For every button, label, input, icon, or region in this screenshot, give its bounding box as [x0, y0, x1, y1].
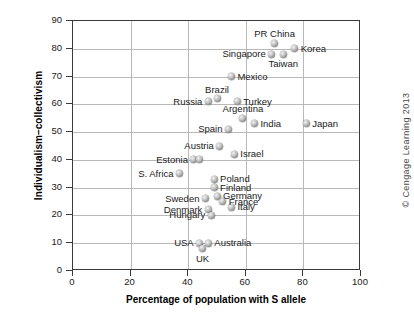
data-point — [202, 195, 209, 202]
data-point-label: PR China — [254, 29, 295, 39]
plot-area: PR ChinaSingaporeKoreaTaiwanMexicoBrazil… — [72, 20, 360, 270]
data-point — [303, 120, 310, 127]
data-point-label: Austria — [184, 141, 214, 151]
data-point-label: Taiwan — [268, 60, 298, 70]
gridline-horizontal — [73, 104, 359, 105]
gridline-vertical — [303, 21, 304, 269]
data-point-label: Russia — [173, 97, 202, 107]
data-point — [211, 184, 218, 191]
gridline-horizontal — [73, 160, 359, 161]
data-point-label: Mexico — [237, 72, 267, 82]
y-tick-label: 50 — [36, 126, 62, 136]
data-point — [205, 98, 212, 105]
data-point-label: Singapore — [222, 50, 265, 60]
y-tick-label: 0 — [36, 265, 62, 275]
data-point-label: Hungary — [169, 211, 205, 221]
data-point — [196, 156, 203, 163]
x-tick-label: 60 — [225, 277, 265, 287]
data-point-label: Italy — [237, 202, 254, 212]
y-tick-label: 10 — [36, 237, 62, 247]
data-point-label: Spain — [198, 125, 222, 135]
data-point-label: UK — [196, 254, 209, 264]
data-point — [176, 170, 183, 177]
data-point — [211, 176, 218, 183]
y-tick-label: 20 — [36, 209, 62, 219]
y-tick-label: 70 — [36, 71, 62, 81]
data-point — [205, 240, 212, 247]
data-point — [216, 143, 223, 150]
gridline-horizontal — [73, 215, 359, 216]
data-point-label: Argentina — [223, 104, 264, 114]
y-tick-label: 90 — [36, 15, 62, 25]
data-point-label: Korea — [301, 44, 326, 54]
y-tick-label: 40 — [36, 154, 62, 164]
scatter-plot-figure: Individualism–collectivism 0102030405060… — [0, 0, 414, 322]
y-tick-label: 60 — [36, 98, 62, 108]
data-point — [228, 73, 235, 80]
data-point — [208, 212, 215, 219]
x-axis-title: Percentage of population with S allele — [72, 294, 360, 305]
data-point-label: USA — [174, 238, 194, 248]
x-tick-label: 100 — [340, 277, 380, 287]
data-point — [280, 51, 287, 58]
data-point-label: Brazil — [205, 85, 229, 95]
data-point-label: India — [260, 119, 281, 129]
data-point — [231, 151, 238, 158]
data-point-label: Sweden — [165, 194, 199, 204]
data-point-label: S. Africa — [138, 169, 173, 179]
x-tick-label: 20 — [110, 277, 150, 287]
x-tick-label: 80 — [282, 277, 322, 287]
data-point-label: Australia — [214, 238, 251, 248]
data-point-label: Estonia — [156, 155, 188, 165]
data-point — [214, 95, 221, 102]
x-tick-label: 0 — [52, 277, 92, 287]
data-point — [268, 51, 275, 58]
gridline-vertical — [131, 21, 132, 269]
copyright-credit: © Cengage Learning 2013 — [401, 60, 411, 240]
data-point-label: Japan — [312, 119, 338, 129]
y-tick-label: 80 — [36, 43, 62, 53]
x-tick-label: 40 — [167, 277, 207, 287]
y-tick-label: 30 — [36, 182, 62, 192]
data-point — [271, 40, 278, 47]
data-point — [225, 126, 232, 133]
data-point — [291, 45, 298, 52]
gridline-horizontal — [73, 77, 359, 78]
data-point — [199, 245, 206, 252]
data-point — [251, 120, 258, 127]
data-point-label: Israel — [240, 150, 263, 160]
